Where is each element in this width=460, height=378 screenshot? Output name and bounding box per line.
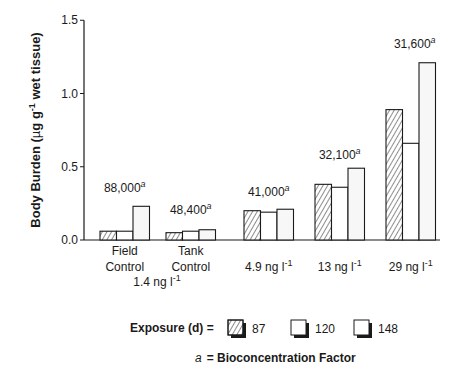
bcf-annotation: 32,100a [319,146,361,162]
legend-label: 120 [315,322,335,336]
y-tick-label: 0.0 [61,233,78,247]
x-tick-label: Tank [178,244,204,258]
legend-title: Exposure (d) = [130,321,214,335]
bars [100,63,436,240]
hatched-swatch-icon [228,320,243,335]
x-tick-label: Control [171,260,210,274]
y-axis: 0.00.51.01.5Body Burden (µg g-1 wet tiss… [27,13,440,247]
bar [315,184,332,240]
x-tick-label: 13 ng l-1 [318,258,362,274]
bar [100,231,117,240]
legend-entry: 148 [354,320,398,338]
footnote: a= Bioconcentration Factor [195,351,356,365]
y-axis-title: Body Burden (µg g-1 wet tissue) [27,32,43,227]
bar [244,211,261,240]
bar [419,63,436,240]
footnote-text: a= Bioconcentration Factor [195,351,356,365]
legend-entry: 87 [228,320,266,338]
x-shared-label: 1.4 ng l-1 [133,273,180,289]
bcf-annotation: 41,000a [248,183,290,199]
bar [183,231,200,240]
bar-group [166,230,216,240]
bar-group [386,63,436,240]
legend: Exposure (d) =87120148 [130,320,398,338]
legend-entry: 120 [291,320,335,338]
bar [403,143,420,240]
legend-label: 148 [378,322,398,336]
bar [348,168,365,240]
bar [261,212,278,240]
y-tick-label: 0.5 [61,160,78,174]
x-tick-label: Field [112,244,138,258]
x-tick-label: 29 ng l-1 [389,258,433,274]
bar-group [315,168,365,240]
bar-chart: 0.00.51.01.5Body Burden (µg g-1 wet tiss… [0,0,460,378]
x-axis-labels: FieldControlTankControl4.9 ng l-113 ng l… [105,244,432,289]
x-tick-label: 4.9 ng l-1 [245,258,292,274]
bcf-annotation: 48,400a [170,201,212,217]
bar-group [244,209,294,240]
bcf-annotation: 88,000a [104,179,146,195]
bar [133,206,150,240]
bar [166,233,183,240]
x-tick-label: Control [105,260,144,274]
legend-label: 87 [252,322,266,336]
bar [332,187,349,240]
bar-group [100,206,150,240]
y-tick-label: 1.5 [61,13,78,27]
bar [117,231,134,240]
bcf-annotation: 31,600a [394,35,436,51]
bar [386,110,403,240]
y-tick-label: 1.0 [61,87,78,101]
bar [277,209,294,240]
bar [199,230,216,240]
